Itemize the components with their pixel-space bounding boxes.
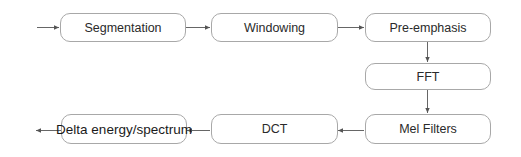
node-fft: FFT (365, 63, 491, 90)
node-pre-emphasis: Pre-emphasis (365, 13, 491, 42)
node-dct: DCT (211, 114, 338, 144)
node-label: DCT (262, 122, 288, 136)
node-label: FFT (417, 70, 440, 84)
node-delta: Delta energy/spectrum (61, 114, 187, 144)
node-label: Delta energy/spectrum (56, 122, 192, 137)
node-label: Pre-emphasis (389, 21, 466, 35)
node-label: Windowing (244, 21, 305, 35)
node-mel-filters: Mel Filters (365, 114, 491, 144)
node-label: Mel Filters (399, 122, 457, 136)
node-windowing: Windowing (211, 13, 338, 42)
node-segmentation: Segmentation (60, 13, 186, 42)
node-label: Segmentation (84, 21, 161, 35)
